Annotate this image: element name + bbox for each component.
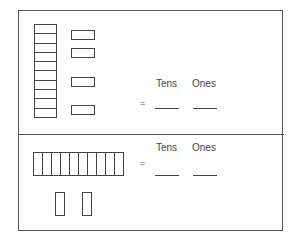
- equals-sign: =: [140, 158, 145, 168]
- tens-answer-blank[interactable]: [155, 108, 179, 109]
- tens-rod-vertical: [34, 24, 57, 118]
- ones-header: Ones: [192, 78, 216, 89]
- ones-answer-blank[interactable]: [193, 175, 217, 176]
- ones-unit-block: [71, 30, 95, 40]
- ones-header: Ones: [192, 142, 216, 153]
- ones-answer-blank[interactable]: [193, 108, 217, 109]
- ones-unit-block: [71, 105, 95, 115]
- tens-header: Tens: [156, 142, 177, 153]
- panel-divider: [18, 134, 284, 135]
- tens-rod-horizontal: [33, 152, 124, 176]
- tens-answer-blank[interactable]: [155, 175, 179, 176]
- ones-unit-block: [71, 77, 95, 87]
- ones-unit-block: [71, 48, 95, 58]
- tens-header: Tens: [156, 78, 177, 89]
- equals-sign: =: [140, 98, 145, 108]
- ones-unit-block: [82, 192, 92, 216]
- ones-unit-block: [55, 192, 65, 216]
